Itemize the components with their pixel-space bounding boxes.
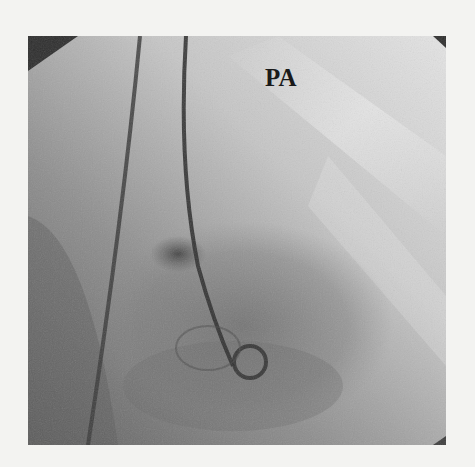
fluoroscopy-image: PA <box>28 36 446 445</box>
angiogram-graphic <box>28 36 446 445</box>
view-label: PA <box>265 64 296 92</box>
